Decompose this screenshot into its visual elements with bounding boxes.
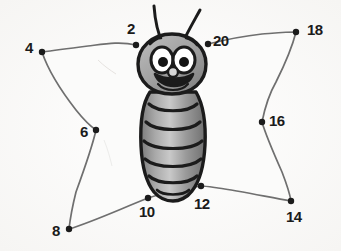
dot-label-18: 18 bbox=[307, 22, 323, 37]
dot-label-16: 16 bbox=[269, 113, 285, 128]
dot-marker-14[interactable] bbox=[288, 198, 294, 204]
dot-marker-6[interactable] bbox=[93, 127, 99, 133]
caterpillar-head bbox=[138, 34, 206, 94]
dot-label-20: 20 bbox=[213, 33, 229, 48]
pupil-right bbox=[179, 57, 189, 67]
pupil-left bbox=[158, 57, 168, 67]
dot-marker-12[interactable] bbox=[198, 183, 204, 189]
dot-marker-18[interactable] bbox=[293, 29, 299, 35]
dot-marker-16[interactable] bbox=[259, 119, 265, 125]
dot-label-6: 6 bbox=[80, 124, 88, 139]
connect-the-dots-puzzle: 2468101214161820 bbox=[0, 0, 341, 251]
dot-label-14: 14 bbox=[286, 209, 302, 224]
dot-marker-8[interactable] bbox=[66, 226, 72, 232]
dot-label-4: 4 bbox=[25, 40, 33, 55]
dot-label-12: 12 bbox=[194, 196, 210, 211]
dot-marker-10[interactable] bbox=[145, 195, 151, 201]
dot-marker-20[interactable] bbox=[205, 41, 211, 47]
nose bbox=[168, 67, 178, 77]
dot-label-10: 10 bbox=[139, 204, 155, 219]
dot-label-2: 2 bbox=[127, 21, 135, 36]
dot-label-8: 8 bbox=[52, 223, 60, 238]
dot-marker-4[interactable] bbox=[39, 49, 45, 55]
dot-marker-2[interactable] bbox=[133, 42, 139, 48]
caterpillar-abdomen bbox=[141, 92, 205, 201]
